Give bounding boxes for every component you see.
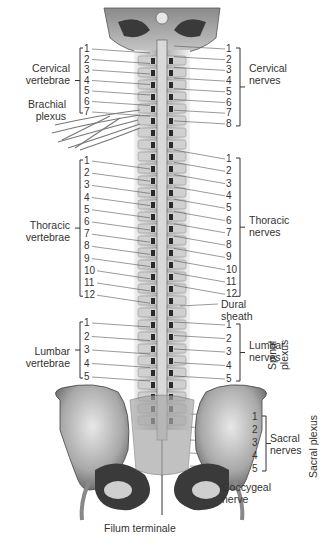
foramen-right <box>169 298 173 304</box>
spinal-plexus-line2: plexus <box>278 340 290 370</box>
left-number: 12 <box>84 290 95 300</box>
foramen-left <box>151 274 155 280</box>
left-number: 5 <box>84 205 90 215</box>
dural-sheath-line2: sheath <box>221 310 253 322</box>
left-number: 4 <box>84 193 90 203</box>
right-group-label-line: nerves <box>249 74 287 86</box>
left-number: 1 <box>84 156 90 166</box>
left-number: 3 <box>84 345 90 355</box>
left-number: 5 <box>84 86 90 96</box>
foramen-right <box>169 238 173 244</box>
foramen-left <box>151 286 155 292</box>
sacral-plexus-label: Sacral plexus <box>307 415 319 478</box>
right-group-label-line: nerves <box>249 226 289 238</box>
left-group-label-line: vertebrae <box>4 231 70 243</box>
left-number: 1 <box>84 318 90 328</box>
right-number: 2 <box>226 166 232 176</box>
spinal-cord <box>157 40 167 440</box>
right-group-label-line: Thoracic <box>249 214 289 226</box>
right-number: 2 <box>226 334 232 344</box>
right-number: 5 <box>226 203 232 213</box>
right-group-label-line: Cervical <box>249 62 287 74</box>
right-bracket <box>236 158 245 296</box>
right-number: 9 <box>226 252 232 262</box>
foramen-left <box>151 118 155 124</box>
right-number: 3 <box>252 438 258 448</box>
foramen-left <box>151 130 155 136</box>
left-number: 9 <box>84 254 90 264</box>
right-number: 6 <box>226 98 232 108</box>
foramen-right <box>169 286 173 292</box>
foramen-right <box>169 274 173 280</box>
left-number: 11 <box>84 278 94 288</box>
foramen-left <box>151 82 155 88</box>
left-number: 3 <box>84 180 90 190</box>
foramen-right <box>169 70 173 76</box>
left-number: 6 <box>84 97 90 107</box>
coccygeal-nerve-line2: nerve <box>222 493 271 505</box>
right-number: 3 <box>226 65 232 75</box>
brachial-plexus-line2: plexus <box>6 110 66 122</box>
foramen-right <box>169 166 173 172</box>
right-number: 8 <box>226 119 232 129</box>
left-number: 2 <box>84 55 90 65</box>
foramen-left <box>151 334 155 340</box>
foramen-right <box>169 334 173 340</box>
right-group-label-line: nerves <box>270 444 302 456</box>
left-group-label-line: vertebrae <box>4 74 70 86</box>
foramen-left <box>151 142 155 148</box>
foramen-right <box>169 142 173 148</box>
foramen-right <box>169 382 173 388</box>
right-number: 4 <box>226 361 232 371</box>
left-number: 2 <box>84 168 90 178</box>
left-number: 3 <box>84 65 90 75</box>
right-number: 5 <box>226 374 232 384</box>
foramen-right <box>169 250 173 256</box>
right-number: 1 <box>252 412 258 422</box>
right-bracket <box>236 324 245 381</box>
brachial-plexus-line1: Brachial <box>6 98 66 110</box>
foramen-left <box>151 250 155 256</box>
right-number: 10 <box>226 265 237 275</box>
foramen-left <box>151 94 155 100</box>
foramen-left <box>151 106 155 112</box>
foramen-left <box>151 154 155 160</box>
left-number: 7 <box>84 107 90 117</box>
dural-sheath-line1: Dural <box>221 298 253 310</box>
coccygeal-nerve-label: Coccygeal nerve <box>222 481 271 505</box>
left-group-label: Lumbarvertebrae <box>4 345 70 369</box>
foramen-right <box>169 310 173 316</box>
foramen-left <box>151 166 155 172</box>
right-number: 3 <box>226 179 232 189</box>
right-number: 5 <box>252 464 258 474</box>
foramen-left <box>151 214 155 220</box>
foramen-right <box>169 82 173 88</box>
right-number: 2 <box>226 55 232 65</box>
foramen-left <box>151 190 155 196</box>
foramen-left <box>151 382 155 388</box>
right-number: 4 <box>252 451 258 461</box>
right-group-label: Cervicalnerves <box>249 62 287 86</box>
foramen-left <box>151 202 155 208</box>
foramen-right <box>169 154 173 160</box>
foramen-left <box>151 310 155 316</box>
left-group-label-line: vertebrae <box>4 357 70 369</box>
foramen-right <box>169 322 173 328</box>
right-number: 1 <box>226 154 232 164</box>
right-number: 6 <box>226 216 232 226</box>
foramen-left <box>151 178 155 184</box>
foramen-right <box>169 346 173 352</box>
foramen-right <box>169 178 173 184</box>
foramen-left <box>151 238 155 244</box>
left-group-label-line: Thoracic <box>4 219 70 231</box>
foramen-right <box>169 358 173 364</box>
left-number: 4 <box>84 359 90 369</box>
foramen-right <box>169 106 173 112</box>
left-number: 10 <box>84 266 95 276</box>
right-number: 8 <box>226 240 232 250</box>
foramen-right <box>169 58 173 64</box>
foramen-left <box>151 70 155 76</box>
foramen-right <box>169 94 173 100</box>
foramen-right <box>169 202 173 208</box>
right-number: 7 <box>226 108 232 118</box>
